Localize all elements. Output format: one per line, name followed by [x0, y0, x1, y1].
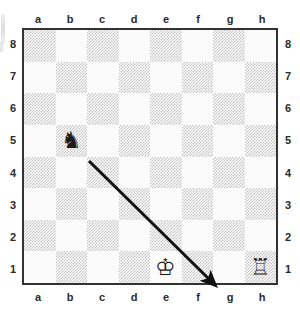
square-b4[interactable]: [56, 157, 88, 189]
rank-label-right-1: 1: [281, 262, 295, 276]
square-f5[interactable]: [182, 125, 214, 157]
square-b8[interactable]: [56, 30, 88, 62]
square-e3[interactable]: [150, 188, 182, 220]
square-e7[interactable]: [150, 62, 182, 94]
square-f1[interactable]: [182, 251, 214, 283]
square-c7[interactable]: [87, 62, 119, 94]
square-d1[interactable]: [119, 251, 151, 283]
square-d2[interactable]: [119, 220, 151, 252]
file-label-bottom-c: c: [95, 291, 109, 303]
square-f6[interactable]: [182, 93, 214, 125]
square-a6[interactable]: [24, 93, 56, 125]
square-h7[interactable]: [245, 62, 277, 94]
square-h3[interactable]: [245, 188, 277, 220]
square-c5[interactable]: [87, 125, 119, 157]
square-c6[interactable]: [87, 93, 119, 125]
square-g3[interactable]: [213, 188, 245, 220]
square-f7[interactable]: [182, 62, 214, 94]
square-a2[interactable]: [24, 220, 56, 252]
rank-label-left-7: 7: [6, 69, 20, 83]
file-label-top-f: f: [191, 13, 205, 25]
square-b6[interactable]: [56, 93, 88, 125]
square-h4[interactable]: [245, 157, 277, 189]
file-label-bottom-f: f: [191, 291, 205, 303]
square-g4[interactable]: [213, 157, 245, 189]
square-g2[interactable]: [213, 220, 245, 252]
king-piece-e1[interactable]: ♔: [150, 251, 182, 283]
rank-label-right-5: 5: [281, 133, 295, 147]
square-h5[interactable]: [245, 125, 277, 157]
rank-label-left-8: 8: [6, 37, 20, 51]
scan-artifact-secondary: [0, 42, 3, 52]
square-f4[interactable]: [182, 157, 214, 189]
rank-label-left-3: 3: [6, 198, 20, 212]
square-h1[interactable]: ♖: [245, 251, 277, 283]
square-d7[interactable]: [119, 62, 151, 94]
square-a8[interactable]: [24, 30, 56, 62]
square-b3[interactable]: [56, 188, 88, 220]
square-g5[interactable]: [213, 125, 245, 157]
scan-artifact: [1, 14, 5, 44]
rook-piece-h1[interactable]: ♖: [245, 251, 277, 283]
file-label-top-b: b: [63, 13, 77, 25]
rank-label-right-6: 6: [281, 101, 295, 115]
square-h8[interactable]: [245, 30, 277, 62]
square-a1[interactable]: [24, 251, 56, 283]
file-label-top-e: e: [159, 13, 173, 25]
square-e2[interactable]: [150, 220, 182, 252]
file-label-top-c: c: [95, 13, 109, 25]
square-a4[interactable]: [24, 157, 56, 189]
file-label-bottom-g: g: [223, 291, 237, 303]
square-b5[interactable]: ♞: [56, 125, 88, 157]
square-e4[interactable]: [150, 157, 182, 189]
square-c1[interactable]: [87, 251, 119, 283]
square-e6[interactable]: [150, 93, 182, 125]
square-e8[interactable]: [150, 30, 182, 62]
square-a3[interactable]: [24, 188, 56, 220]
rank-label-left-2: 2: [6, 230, 20, 244]
square-c2[interactable]: [87, 220, 119, 252]
square-b1[interactable]: [56, 251, 88, 283]
file-label-bottom-d: d: [127, 291, 141, 303]
file-label-top-h: h: [255, 13, 269, 25]
file-label-top-a: a: [31, 13, 45, 25]
square-g7[interactable]: [213, 62, 245, 94]
square-g6[interactable]: [213, 93, 245, 125]
square-g8[interactable]: [213, 30, 245, 62]
square-d3[interactable]: [119, 188, 151, 220]
square-c8[interactable]: [87, 30, 119, 62]
square-d4[interactable]: [119, 157, 151, 189]
square-b7[interactable]: [56, 62, 88, 94]
rank-label-left-4: 4: [6, 166, 20, 180]
knight-piece-b5[interactable]: ♞: [56, 125, 88, 157]
chess-diagram: abcdefgh abcdefgh 87654321 87654321 ♞♔♖: [0, 0, 300, 315]
square-h6[interactable]: [245, 93, 277, 125]
file-label-bottom-e: e: [159, 291, 173, 303]
file-label-top-g: g: [223, 13, 237, 25]
square-d8[interactable]: [119, 30, 151, 62]
square-f2[interactable]: [182, 220, 214, 252]
square-a7[interactable]: [24, 62, 56, 94]
chess-board[interactable]: ♞♔♖: [22, 28, 278, 285]
square-d6[interactable]: [119, 93, 151, 125]
rank-label-right-8: 8: [281, 37, 295, 51]
square-f3[interactable]: [182, 188, 214, 220]
square-c4[interactable]: [87, 157, 119, 189]
rank-label-right-4: 4: [281, 166, 295, 180]
rank-label-left-1: 1: [6, 262, 20, 276]
square-d5[interactable]: [119, 125, 151, 157]
square-f8[interactable]: [182, 30, 214, 62]
square-g1[interactable]: [213, 251, 245, 283]
file-label-top-d: d: [127, 13, 141, 25]
square-b2[interactable]: [56, 220, 88, 252]
square-h2[interactable]: [245, 220, 277, 252]
square-c3[interactable]: [87, 188, 119, 220]
rank-label-left-5: 5: [6, 133, 20, 147]
square-e5[interactable]: [150, 125, 182, 157]
file-label-bottom-b: b: [63, 291, 77, 303]
file-label-bottom-h: h: [255, 291, 269, 303]
board-squares: ♞♔♖: [24, 30, 276, 283]
rank-label-right-2: 2: [281, 230, 295, 244]
square-e1[interactable]: ♔: [150, 251, 182, 283]
square-a5[interactable]: [24, 125, 56, 157]
